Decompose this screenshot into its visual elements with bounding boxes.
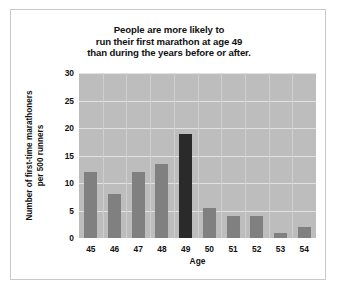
bar-49 [179, 134, 192, 239]
y-axis-tick-label: 20 [65, 123, 74, 133]
bar-slot [245, 73, 269, 238]
chart-figure: People are more likely to run their firs… [10, 9, 326, 280]
y-axis-tick-label: 25 [65, 96, 74, 106]
bar-slot [221, 73, 245, 238]
x-axis-tick-label: 52 [252, 244, 261, 254]
x-axis-tick-label: 47 [134, 244, 143, 254]
plot-area: 051015202530 45464748495051525354 [79, 73, 316, 238]
bar-54 [298, 227, 311, 238]
x-axis-tick-label: 53 [276, 244, 285, 254]
bar-52 [250, 216, 263, 238]
bar-48 [155, 164, 168, 238]
y-axis-tick-label: 15 [65, 151, 74, 161]
x-axis-tick-label: 45 [86, 244, 95, 254]
bar-slot [126, 73, 150, 238]
bar-slot [174, 73, 198, 238]
bar-53 [274, 233, 287, 239]
y-axis-tick-label: 10 [65, 178, 74, 188]
bar-slot [198, 73, 222, 238]
y-axis-tick-label: 0 [69, 233, 74, 243]
bar-46 [108, 194, 121, 238]
x-axis-tick-label: 54 [299, 244, 308, 254]
bar-slot [103, 73, 127, 238]
x-axis-tick-label: 49 [181, 244, 190, 254]
bar-slot [79, 73, 103, 238]
bar-45 [84, 172, 97, 238]
bar-slot [269, 73, 293, 238]
x-axis-tick-label: 46 [110, 244, 119, 254]
x-axis-tick-label: 50 [205, 244, 214, 254]
bar-47 [132, 172, 145, 238]
y-axis-label-line-1: Number of first-time marathoners [25, 73, 36, 238]
bar-series [79, 73, 316, 238]
y-axis-tick-label: 30 [65, 68, 74, 78]
x-axis-label: Age [79, 256, 316, 266]
x-axis-tick-label: 51 [228, 244, 237, 254]
y-axis-label-text: Number of first-time marathoners per 500… [25, 73, 46, 238]
bar-51 [227, 216, 240, 238]
y-axis-label: Number of first-time marathoners per 500… [25, 0, 59, 73]
y-axis-tick-label: 5 [69, 206, 74, 216]
bar-slot [292, 73, 316, 238]
x-axis-tick-label: 48 [157, 244, 166, 254]
bar-50 [203, 208, 216, 238]
y-axis-label-line-2: per 500 runners [36, 73, 47, 238]
bar-slot [150, 73, 174, 238]
